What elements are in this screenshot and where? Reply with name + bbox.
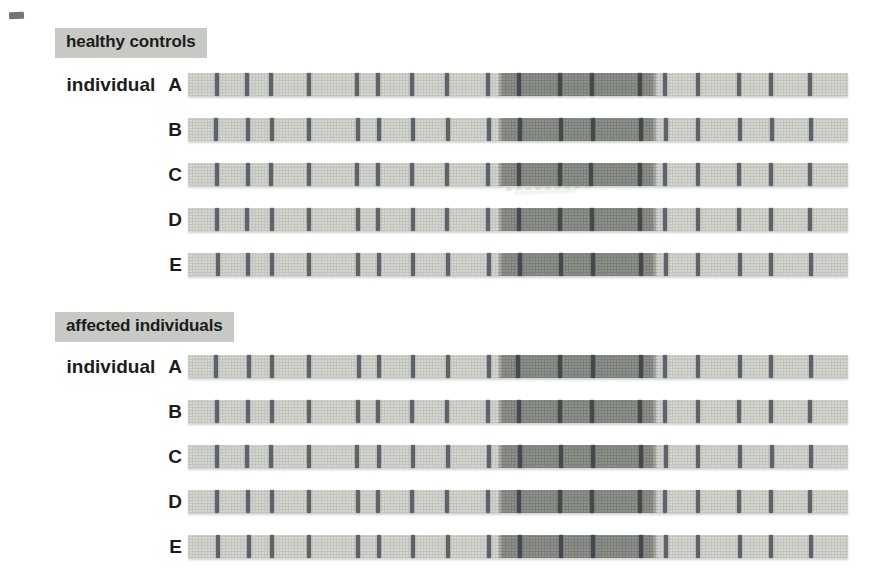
snp-marker-tick-dark xyxy=(559,118,563,141)
snp-marker-tick xyxy=(216,253,220,276)
snp-marker-tick xyxy=(245,445,249,468)
section-label-text: healthy controls xyxy=(66,32,196,51)
snp-marker-tick xyxy=(446,535,450,558)
snp-marker-tick xyxy=(696,118,700,141)
haplotype-bar xyxy=(188,118,848,141)
snp-marker-tick xyxy=(270,535,274,558)
snp-marker-tick xyxy=(270,118,274,141)
snp-marker-tick xyxy=(445,490,449,513)
snp-marker-tick-dark xyxy=(517,490,521,513)
snp-marker-tick xyxy=(696,445,700,468)
snp-marker-tick xyxy=(446,355,450,378)
rows-group: individual A B C D xyxy=(0,73,895,276)
snp-marker-tick xyxy=(411,118,415,141)
snp-marker-tick xyxy=(738,355,742,378)
snp-marker-tick xyxy=(769,400,773,423)
snp-marker-tick xyxy=(663,208,667,231)
row-label-prefix: individual xyxy=(67,73,156,96)
shared-haplotype-block xyxy=(498,208,657,231)
snp-marker-tick-dark xyxy=(517,208,521,231)
snp-marker-tick xyxy=(411,355,415,378)
snp-marker-tick xyxy=(376,400,380,423)
snp-marker-tick xyxy=(446,445,450,468)
snp-marker-tick xyxy=(445,400,449,423)
snp-marker-tick xyxy=(664,445,668,468)
individual-row: D xyxy=(0,208,895,231)
individual-row: E xyxy=(0,253,895,276)
snp-marker-tick xyxy=(215,73,219,96)
snp-marker-tick xyxy=(446,118,450,141)
snp-marker-tick xyxy=(377,118,381,141)
row-label-letter: E xyxy=(169,253,182,276)
snp-marker-tick-dark xyxy=(639,535,643,558)
snp-marker-tick xyxy=(663,355,667,378)
snp-marker-tick-dark xyxy=(639,253,643,276)
haplotype-bar xyxy=(188,253,848,276)
snp-marker-tick xyxy=(809,253,813,276)
section-label-band: affected individuals xyxy=(55,312,234,342)
snp-marker-tick xyxy=(411,253,415,276)
haplotype-bar xyxy=(188,208,848,231)
snp-marker-tick xyxy=(357,355,361,378)
row-label: D xyxy=(0,208,182,231)
individual-row: D xyxy=(0,490,895,513)
snp-marker-tick-dark xyxy=(589,163,593,186)
snp-marker-tick xyxy=(246,118,250,141)
snp-marker-tick xyxy=(270,400,274,423)
snp-marker-tick-dark xyxy=(518,445,522,468)
snp-marker-tick xyxy=(446,253,450,276)
snp-marker-tick xyxy=(663,400,667,423)
snp-marker-tick xyxy=(214,355,218,378)
snp-marker-tick xyxy=(307,73,311,96)
snp-marker-tick xyxy=(356,118,360,141)
row-label-letter: C xyxy=(168,163,182,186)
snp-marker-tick xyxy=(270,208,274,231)
snp-marker-tick-dark xyxy=(558,400,562,423)
snp-marker-tick xyxy=(307,118,311,141)
rows-group: individual A B C D xyxy=(0,355,895,558)
snp-marker-tick xyxy=(487,445,491,468)
haplotype-bar xyxy=(188,73,848,96)
row-label: B xyxy=(0,118,182,141)
snp-marker-tick xyxy=(411,535,415,558)
snp-marker-tick xyxy=(486,73,490,96)
snp-marker-tick xyxy=(738,445,742,468)
snp-marker-tick-dark xyxy=(518,253,522,276)
row-label: E xyxy=(0,535,182,558)
snp-marker-tick xyxy=(307,253,311,276)
snp-marker-tick xyxy=(696,400,700,423)
snp-marker-tick xyxy=(377,445,381,468)
section-affected-individuals: affected individuals individual A B C xyxy=(0,312,895,558)
snp-marker-tick xyxy=(769,535,773,558)
individual-row: individual A xyxy=(0,355,895,378)
snp-marker-tick xyxy=(486,400,490,423)
snp-marker-tick-dark xyxy=(559,445,563,468)
snp-marker-tick xyxy=(696,73,700,96)
snp-marker-tick xyxy=(769,355,773,378)
snp-marker-tick xyxy=(377,535,381,558)
snp-marker-tick xyxy=(376,73,380,96)
snp-marker-tick-dark xyxy=(518,118,522,141)
snp-marker-tick xyxy=(377,355,381,378)
snp-marker-tick xyxy=(216,535,220,558)
row-label-letter: A xyxy=(168,73,182,96)
snp-marker-tick xyxy=(663,73,667,96)
snp-marker-tick xyxy=(356,535,360,558)
snp-marker-tick-dark xyxy=(590,400,594,423)
snp-marker-tick xyxy=(356,253,360,276)
snp-marker-tick xyxy=(269,445,273,468)
snp-marker-tick xyxy=(486,163,490,186)
row-label: B xyxy=(0,400,182,423)
snp-marker-tick-dark xyxy=(517,400,521,423)
snp-marker-tick xyxy=(376,163,380,186)
snp-marker-tick xyxy=(769,208,773,231)
snp-marker-tick xyxy=(737,490,741,513)
snp-marker-tick-dark xyxy=(638,490,642,513)
snp-marker-tick xyxy=(355,73,359,96)
snp-marker-tick xyxy=(769,73,773,96)
snp-marker-tick xyxy=(737,208,741,231)
snp-marker-tick xyxy=(307,400,311,423)
row-label: D xyxy=(0,490,182,513)
row-label: E xyxy=(0,253,182,276)
snp-marker-tick-dark xyxy=(591,118,595,141)
